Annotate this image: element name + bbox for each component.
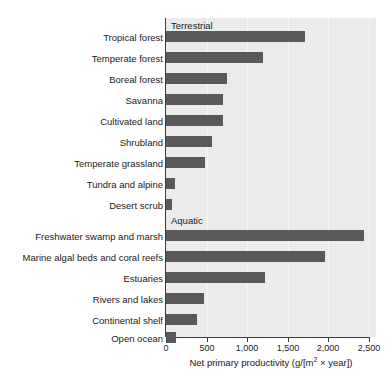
tick-mark-2500 bbox=[369, 338, 370, 342]
tick-mark-0 bbox=[166, 338, 167, 342]
bar-temperate-grassland bbox=[166, 157, 205, 168]
bar-open-ocean bbox=[166, 332, 176, 343]
tick-mark-1500 bbox=[288, 338, 289, 342]
category-label-temperate-grassland: Temperate grassland bbox=[74, 158, 163, 169]
group-heading-aquatic: Aquatic bbox=[171, 215, 203, 226]
x-axis-title-prefix: Net primary productivity (g/[m bbox=[189, 357, 313, 368]
category-label-estuaries: Estuaries bbox=[123, 273, 163, 284]
gridline-500 bbox=[207, 18, 208, 337]
bar-savanna bbox=[166, 94, 223, 105]
x-axis-line bbox=[166, 337, 370, 338]
category-label-rivers-and-lakes: Rivers and lakes bbox=[93, 294, 163, 305]
tick-mark-1000 bbox=[247, 338, 248, 342]
category-label-freshwater-swamp-and-marsh: Freshwater swamp and marsh bbox=[35, 231, 163, 242]
category-label-shrubland: Shrubland bbox=[120, 137, 163, 148]
group-heading-terrestrial: Terrestrial bbox=[171, 20, 213, 31]
tick-label-1500: 1,500 bbox=[277, 343, 300, 354]
bar-tundra-and-alpine bbox=[166, 178, 175, 189]
tick-label-2500: 2,500 bbox=[358, 343, 381, 354]
bar-shrubland bbox=[166, 136, 212, 147]
bar-tropical-forest bbox=[166, 31, 305, 42]
tick-label-2000: 2,000 bbox=[317, 343, 340, 354]
gridline-1500 bbox=[288, 18, 289, 337]
tick-label-0: 0 bbox=[163, 343, 168, 354]
tick-label-1000: 1,000 bbox=[236, 343, 259, 354]
category-label-tundra-and-alpine: Tundra and alpine bbox=[87, 179, 163, 190]
gridline-2500 bbox=[369, 18, 370, 337]
bar-boreal-forest bbox=[166, 73, 227, 84]
category-label-continental-shelf: Continental shelf bbox=[92, 315, 163, 326]
bar-continental-shelf bbox=[166, 314, 197, 325]
bar-temperate-forest bbox=[166, 52, 263, 63]
category-label-boreal-forest: Boreal forest bbox=[109, 74, 163, 85]
tick-mark-2000 bbox=[328, 338, 329, 342]
category-label-cultivated-land: Cultivated land bbox=[100, 116, 163, 127]
x-axis-title: Net primary productivity (g/[m2 × year]) bbox=[166, 357, 376, 369]
bar-desert-scrub bbox=[166, 199, 172, 210]
category-label-open-ocean: Open ocean bbox=[111, 333, 163, 344]
bar-cultivated-land bbox=[166, 115, 223, 126]
tick-mark-500 bbox=[207, 338, 208, 342]
gridline-1000 bbox=[247, 18, 248, 337]
plot-area bbox=[166, 18, 376, 337]
bar-estuaries bbox=[166, 272, 265, 283]
bar-rivers-and-lakes bbox=[166, 293, 204, 304]
x-axis-title-suffix: × year]) bbox=[317, 357, 352, 368]
bar-marine-algal-beds-and-coral-reefs bbox=[166, 251, 325, 262]
category-label-tropical-forest: Tropical forest bbox=[103, 32, 163, 43]
bar-freshwater-swamp-and-marsh bbox=[166, 230, 364, 241]
category-label-temperate-forest: Temperate forest bbox=[92, 53, 163, 64]
category-label-desert-scrub: Desert scrub bbox=[109, 200, 163, 211]
category-label-marine-algal-beds-and-coral-reefs: Marine algal beds and coral reefs bbox=[23, 252, 163, 263]
tick-label-500: 500 bbox=[199, 343, 214, 354]
gridline-2000 bbox=[328, 18, 329, 337]
npp-bar-chart: Terrestrial Tropical forest Temperate fo… bbox=[0, 0, 392, 383]
category-label-savanna: Savanna bbox=[125, 95, 163, 106]
